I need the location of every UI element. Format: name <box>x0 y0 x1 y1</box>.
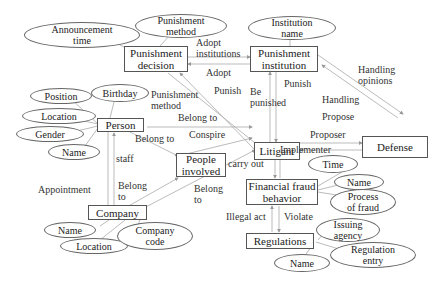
rel-handling-opinions: Handling opinions <box>358 64 395 86</box>
rel-belong-to-company-litigant: Belong to <box>194 183 223 205</box>
rel-be-punished: Be punished <box>250 86 286 108</box>
rel-adopt-institutions: Adopt institutions <box>196 37 240 59</box>
attr-announcement-time[interactable]: Announcement time <box>24 22 140 48</box>
attr-company-code[interactable]: Company code <box>117 222 193 250</box>
rel-staff: staff <box>116 153 134 164</box>
entity-label: Regulations <box>254 235 307 247</box>
attr-name-regulations[interactable]: Name <box>274 254 330 272</box>
rel-carry-out: carry out <box>228 158 264 169</box>
entity-label: Punishment decision <box>130 47 182 71</box>
rel-handling: Handling <box>322 94 359 105</box>
rel-violate: Violate <box>284 211 313 222</box>
rel-propose: Propose <box>322 111 354 122</box>
rel-belong-to-people: Belong to <box>135 133 174 144</box>
rel-belong-to-company-people: Belong to <box>118 180 147 202</box>
entity-label: Person <box>106 119 136 131</box>
attr-institution-name[interactable]: Institution name <box>248 16 336 40</box>
attr-time[interactable]: Time <box>308 155 358 173</box>
attr-process-of-fraud[interactable]: Process of fraud <box>330 189 396 215</box>
rel-conspire: Conspire <box>189 129 225 140</box>
attr-birthday[interactable]: Birthday <box>91 84 149 102</box>
er-diagram: Punishment decision Punishment instituti… <box>0 0 441 281</box>
rel-implementer: Implementer <box>280 144 331 155</box>
attr-name-fraud[interactable]: Name <box>334 174 384 190</box>
entity-punishment-institution[interactable]: Punishment institution <box>250 46 318 72</box>
attr-regulation-entry[interactable]: Regulation entry <box>330 242 416 268</box>
entity-person[interactable]: Person <box>97 118 144 132</box>
entity-label: Punishment institution <box>258 47 310 71</box>
rel-proposer: Proposer <box>310 129 346 140</box>
attr-issuing-agency[interactable]: Issuing agency <box>316 218 380 242</box>
attr-position[interactable]: Position <box>30 88 92 104</box>
attr-name-company[interactable]: Name <box>44 222 96 238</box>
attr-name-person[interactable]: Name <box>48 144 100 160</box>
entity-defense[interactable]: Defense <box>362 136 428 158</box>
rel-illegal-act: Illegal act <box>226 211 266 222</box>
rel-belong-to-litigant: Belong to <box>178 112 217 123</box>
entity-financial-fraud-behavior[interactable]: Financial fraud behavior <box>246 179 318 205</box>
entity-punishment-decision[interactable]: Punishment decision <box>124 46 188 72</box>
rel-adopt: Adopt <box>206 67 231 78</box>
rel-punish-decision: Punish <box>214 85 241 96</box>
rel-punishment-method: Punishment method <box>151 89 198 111</box>
entity-label: People involved <box>182 153 221 177</box>
rel-appointment: Appointment <box>38 184 91 195</box>
entity-people-involved[interactable]: People involved <box>176 153 226 177</box>
entity-label: Company <box>96 207 139 219</box>
attr-gender[interactable]: Gender <box>16 126 84 142</box>
entity-label: Defense <box>377 141 413 153</box>
attr-location[interactable]: Location <box>22 108 96 124</box>
entity-regulations[interactable]: Regulations <box>246 233 314 249</box>
entity-label: Financial fraud behavior <box>249 180 316 204</box>
attr-punishment-method[interactable]: Punishment method <box>135 14 227 38</box>
rel-punish-institution: Punish <box>284 78 311 89</box>
entity-company[interactable]: Company <box>88 205 147 220</box>
attr-location-company[interactable]: Location <box>60 238 128 254</box>
